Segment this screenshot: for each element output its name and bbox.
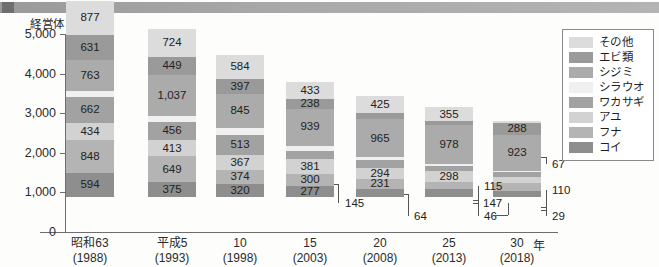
y-axis-tick-label: 2,000 [4, 147, 56, 160]
bar-segment-value: 288 [507, 123, 526, 135]
bar-segment: 434 [66, 123, 114, 140]
x-axis-label: 昭和63(1988) [44, 236, 136, 266]
bar-segment-value: 375 [162, 184, 181, 196]
bar-segment-value: 513 [230, 139, 249, 151]
legend-item[interactable]: エビ類 [569, 50, 648, 65]
bar-segment-value: 877 [80, 12, 99, 24]
legend-item[interactable]: コイ [569, 140, 648, 155]
bar-segment-value: 845 [230, 105, 249, 117]
bar-segment: 631 [66, 35, 114, 60]
legend-item[interactable]: シジミ [569, 65, 648, 80]
bar-segment: 978 [425, 125, 473, 164]
legend-item[interactable]: フナ [569, 125, 648, 140]
bar-segment: 231 [356, 179, 404, 188]
legend-item-label: フナ [599, 127, 622, 139]
y-axis-tick [60, 232, 66, 233]
bar-segment: 170 [425, 182, 473, 189]
segment-callout-label: 110 [552, 184, 570, 196]
legend-item-label: アユ [599, 112, 622, 124]
legend-item-label: シラウオ [599, 82, 644, 94]
legend-swatch [569, 97, 593, 108]
legend-item[interactable]: アユ [569, 110, 648, 125]
bar-segment: 845 [216, 94, 264, 127]
legend-item-label: コイ [599, 142, 622, 154]
legend-item-label: エビ類 [599, 52, 633, 64]
bar-segment-value: 978 [439, 139, 458, 151]
bar-segment: 939 [286, 109, 334, 146]
bar-segment: 288 [493, 123, 541, 134]
y-axis-tick-label: 5,000 [4, 28, 56, 41]
x-axis-label-year: (2018) [471, 251, 563, 266]
bar-segment-value: 367 [230, 157, 249, 169]
x-axis-label-era: 15 [303, 236, 316, 250]
bar-segment: 923 [493, 135, 541, 172]
callout-leader-elbow [546, 207, 547, 216]
bar-segment-value: 413 [162, 143, 181, 155]
bar-segment: 513 [216, 135, 264, 155]
bar-segment-value: 397 [230, 81, 249, 93]
legend-item[interactable]: シラウオ [569, 80, 648, 95]
legend-item[interactable]: その他 [569, 35, 648, 50]
bar-segment: 238 [286, 99, 334, 108]
bar-segment: 375 [148, 182, 196, 197]
bar-segment-value: 662 [80, 104, 99, 116]
bar-segment-value: 433 [300, 85, 319, 97]
stacked-bar-chart: 経営体 01,0002,0003,0004,0005,000 877631763… [0, 13, 659, 267]
legend-item-label: シジミ [599, 67, 633, 79]
bar-group: 35510397846115298170201 [425, 13, 473, 232]
segment-callout-label: 147 [483, 197, 502, 209]
bar-group: 7244491,037149456413649375 [148, 13, 196, 232]
segment-callout-label: 46 [484, 210, 497, 222]
legend-swatch [569, 142, 593, 153]
callout-leader-elbow [408, 194, 409, 216]
bar-segment: 965 [356, 119, 404, 157]
bar-segment: 214 [356, 189, 404, 197]
bar-segment-value: 939 [300, 121, 319, 133]
bar-segment-value: 594 [80, 179, 99, 191]
bar-segment: 413 [148, 140, 196, 156]
bar-segment: 763 [66, 60, 114, 90]
callout-leader-line [493, 215, 508, 216]
bar-segment-value: 381 [300, 161, 319, 173]
x-axis-label-era: 10 [233, 236, 246, 250]
legend-swatch [569, 37, 593, 48]
x-axis-label: 30(2018) [471, 236, 563, 266]
decorative-header-bar-cap [2, 2, 14, 13]
legend-swatch [569, 82, 593, 93]
segment-callout-label: 145 [345, 197, 364, 209]
bar-group: 433238939145192381300277 [286, 13, 334, 232]
legend-swatch [569, 127, 593, 138]
legend-swatch [569, 52, 593, 63]
bar-segment-value: 584 [230, 61, 249, 73]
x-axis-unit-label: 年 [533, 236, 545, 253]
legend-item[interactable]: ワカサギ [569, 95, 648, 110]
bar-group: 877631763152662434848594 [66, 13, 114, 232]
bar-segment: 381 [286, 159, 334, 174]
bar-segment-value: 965 [370, 133, 389, 145]
bar-segment: 456 [148, 122, 196, 140]
bar-segment-value: 374 [230, 171, 249, 183]
segment-callout-label: 115 [484, 180, 502, 192]
bar-segment: 662 [66, 97, 114, 123]
y-axis-tick-label: 4,000 [4, 68, 56, 81]
legend-swatch [569, 112, 593, 123]
bar-segment: 1,037 [148, 75, 196, 116]
y-axis-tick-label: 1,000 [4, 186, 56, 199]
segment-callout-label: 29 [552, 210, 565, 222]
bar-segment: 298 [425, 171, 473, 183]
bar-segment-value: 456 [162, 125, 181, 137]
bar-group: 584397845176513367374320 [216, 13, 264, 232]
bar-segment: 594 [66, 173, 114, 197]
x-axis-label-era: 20 [373, 236, 386, 250]
bar-segment-value: 923 [507, 147, 526, 159]
bar-segment: 367 [216, 155, 264, 170]
legend-item-label: ワカサギ [599, 97, 644, 109]
legend-item-label: その他 [599, 37, 633, 49]
callout-leader-elbow [508, 203, 509, 215]
bar-segment: 584 [216, 55, 264, 78]
bar-segment-value: 1,037 [158, 90, 187, 102]
bar-segment-value: 320 [230, 185, 249, 197]
x-axis-label-era: 30 [510, 236, 523, 250]
legend: その他エビ類シジミシラウオワカサギアユフナコイ [562, 29, 654, 161]
bar-segment-value: 449 [162, 60, 181, 72]
